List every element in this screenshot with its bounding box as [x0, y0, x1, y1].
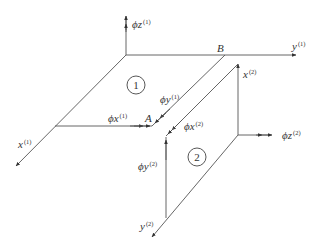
phi-x1-label: ϕx(1) [108, 112, 127, 124]
phi-z2-label: ϕz(2) [282, 129, 301, 141]
phi-y1-arrow-2 [155, 113, 166, 123]
element-2-label: 2 [194, 151, 200, 163]
phi-y2-label: ϕy(2) [138, 160, 157, 172]
point-a-label: A [144, 112, 152, 124]
x1-axis [16, 55, 126, 166]
element-2: 2 [152, 64, 272, 237]
labels: ϕz(1) y(1) B x(2) ϕy(1) ϕx(1) A ϕx(2) ϕz… [17, 18, 305, 232]
x2-label: x(2) [242, 68, 256, 80]
phi-x2-arrow-2 [168, 124, 178, 134]
point-b-label: B [217, 42, 224, 54]
phi-x2-label: ϕx(2) [184, 120, 203, 132]
element-1: 1 [16, 16, 296, 166]
x1-label: x(1) [17, 138, 31, 150]
y1-label: y(1) [291, 40, 305, 52]
phi-y1-label: ϕy(1) [160, 93, 179, 105]
y2-label: y(2) [139, 220, 153, 232]
plate-junction-diagram: 1 2 ϕz(1) y(1) B x(2) ϕy(1) ϕx(1) A ϕx(2… [0, 0, 314, 251]
element-1-label: 1 [133, 79, 139, 91]
phi-z1-label: ϕz(1) [132, 18, 151, 30]
